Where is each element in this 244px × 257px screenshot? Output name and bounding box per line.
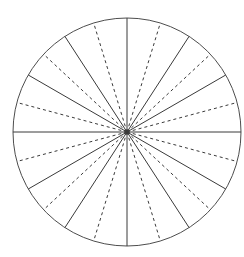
- figure-background: [0, 0, 244, 257]
- figure-container: [0, 0, 244, 257]
- circle-sector-diagram: [0, 0, 244, 257]
